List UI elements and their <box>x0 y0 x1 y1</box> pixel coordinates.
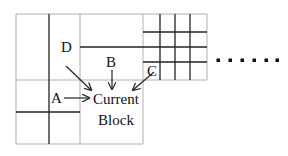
current-block-line1: Current <box>81 89 151 110</box>
label-c: C <box>147 64 157 79</box>
block-diagram <box>0 0 288 156</box>
label-a: A <box>51 91 62 106</box>
label-b: B <box>106 55 116 70</box>
continuation-dots <box>217 59 280 63</box>
current-block-label: Current Block <box>81 89 151 131</box>
current-block-line2: Block <box>81 110 151 131</box>
label-d: D <box>61 40 72 55</box>
arrow-d <box>66 66 91 90</box>
